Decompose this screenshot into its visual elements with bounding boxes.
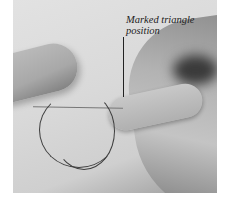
annotation-label: Marked triangle position (126, 14, 226, 36)
annotation-leader-line (123, 37, 124, 97)
hand-shadow (173, 55, 217, 85)
thread-loop-right (53, 92, 115, 170)
